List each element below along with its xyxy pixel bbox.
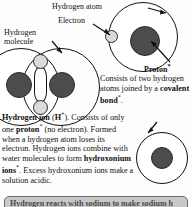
label-proton-marker: * xyxy=(167,63,170,69)
hydrogen-ion-nucleus-proton xyxy=(151,147,173,169)
bottom-banner-text: Hydrogen reacts with sodium to make sodi… xyxy=(10,199,173,207)
label-hydrogen-molecule-line2: molecule xyxy=(4,37,33,46)
label-electron: Electron xyxy=(58,16,85,25)
hydrogen-atom-nucleus-proton xyxy=(130,26,160,56)
covalent-tail: . xyxy=(121,96,123,105)
bottom-banner: Hydrogen reacts with sodium to make sodi… xyxy=(4,196,188,207)
label-proton-text: Proton xyxy=(144,65,167,74)
hydrogen-atom-electron xyxy=(105,30,118,43)
ion-bold-proton: proton xyxy=(16,125,40,134)
label-hydrogen-atom: Hydrogen atom xyxy=(52,2,102,11)
label-proton: Proton* xyxy=(144,62,170,74)
covalent-bond-description: Consists of two hydrogen atoms joined by… xyxy=(100,74,190,106)
hydrogen-ion-description: Hydrogen ion (H+). Consists of only one … xyxy=(2,110,134,185)
hydrogen-molecule-left-nucleus xyxy=(6,72,32,98)
ion-tail: . Excess hydroxonium ions make a solutio… xyxy=(2,166,133,185)
label-hydrogen-molecule-line1: Hydrogen xyxy=(4,28,36,37)
covalent-bond-shape xyxy=(34,66,47,103)
hydrogen-molecule-right-nucleus xyxy=(49,72,75,98)
hydrogen-infographic: Hydrogen atom Electron Hydrogen molecule… xyxy=(0,0,192,207)
hydrogen-molecule-shared-electron-top xyxy=(33,54,48,69)
ion-title: Hydrogen ion xyxy=(2,113,50,122)
